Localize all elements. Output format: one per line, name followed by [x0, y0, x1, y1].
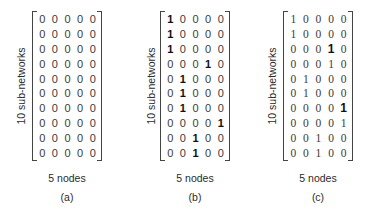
matrix-cell: 1: [177, 72, 190, 87]
matrix-cell: 0: [49, 57, 62, 72]
matrix-cell: 0: [189, 12, 202, 27]
matrix-cell: 0: [214, 12, 227, 27]
matrix-cell: 0: [164, 131, 177, 146]
panel-c: 10 sub-networks 100001000000010000100100…: [248, 0, 368, 216]
matrix-cell: 1: [177, 86, 190, 101]
panel-caption: (b): [155, 191, 235, 204]
matrix-cell: 0: [49, 12, 62, 27]
matrix-cell: 0: [337, 42, 350, 57]
matrix-cell: 0: [86, 116, 99, 131]
matrix-cell: 0: [177, 116, 190, 131]
matrix-cell: 0: [49, 116, 62, 131]
matrix-cell: 0: [202, 116, 215, 131]
matrix-cell: 0: [49, 146, 62, 161]
matrix-cell: 0: [74, 146, 87, 161]
matrix-cell: 0: [202, 42, 215, 57]
matrix-cell: 0: [312, 86, 325, 101]
matrix-cell: 0: [74, 86, 87, 101]
matrix-cell: 0: [36, 57, 49, 72]
matrix-cell: 0: [214, 57, 227, 72]
matrix-cell: 0: [214, 131, 227, 146]
matrix-cell: 0: [61, 116, 74, 131]
matrix-cell: 0: [61, 131, 74, 146]
matrix-cell: 0: [214, 27, 227, 42]
matrix-cell: 0: [337, 27, 350, 42]
panel-caption: (c): [278, 191, 358, 204]
x-axis-label: 5 nodes: [155, 172, 235, 185]
matrix-cell: 0: [86, 12, 99, 27]
panel-a: 10 sub-networks 000000000000000000000000…: [0, 0, 120, 216]
matrix-grid: 1000010000000100001001000010000000100001…: [287, 12, 350, 161]
matrix-cell: 0: [300, 146, 313, 161]
matrix-cell: 0: [36, 146, 49, 161]
matrix-cell: 0: [287, 42, 300, 57]
panel-caption: (a): [27, 191, 107, 204]
matrix-cell: 1: [312, 146, 325, 161]
matrix-cell: 0: [325, 27, 338, 42]
matrix-cell: 0: [312, 42, 325, 57]
matrix-cell: 0: [337, 12, 350, 27]
matrix-cell: 0: [74, 101, 87, 116]
matrix-cell: 0: [287, 72, 300, 87]
matrix-cell: 0: [202, 101, 215, 116]
matrix-cell: 0: [214, 146, 227, 161]
matrix-cell: 0: [61, 72, 74, 87]
y-axis-label: 10 sub-networks: [265, 26, 279, 146]
matrix-cell: 0: [164, 72, 177, 87]
matrix-cell: 0: [325, 101, 338, 116]
matrix-cell: 0: [214, 72, 227, 87]
matrix-cell: 0: [189, 42, 202, 57]
matrix-cell: 0: [287, 57, 300, 72]
matrix-cell: 0: [189, 27, 202, 42]
matrix-c: 1000010000000100001001000010000000100001…: [283, 11, 353, 161]
matrix-cell: 0: [300, 42, 313, 57]
matrix-cell: 1: [287, 27, 300, 42]
matrix-cell: 0: [325, 116, 338, 131]
matrix-cell: 1: [337, 116, 350, 131]
matrix-cell: 0: [49, 72, 62, 87]
matrix-cell: 0: [74, 116, 87, 131]
matrix-cell: 0: [49, 86, 62, 101]
matrix-cell: 1: [325, 57, 338, 72]
matrix-cell: 0: [300, 116, 313, 131]
matrix-cell: 0: [86, 101, 99, 116]
matrix-cell: 0: [202, 12, 215, 27]
matrix-cell: 0: [337, 146, 350, 161]
matrix-cell: 0: [202, 72, 215, 87]
matrix-cell: 0: [86, 42, 99, 57]
matrix-cell: 0: [177, 42, 190, 57]
matrix-cell: 0: [300, 27, 313, 42]
matrix-cell: 0: [325, 12, 338, 27]
matrix-cell: 0: [177, 27, 190, 42]
matrix-cell: 0: [202, 146, 215, 161]
matrix-cell: 0: [300, 12, 313, 27]
matrix-cell: 0: [36, 12, 49, 27]
y-axis-label: 10 sub-networks: [144, 26, 158, 146]
matrix-cell: 0: [164, 101, 177, 116]
matrix-cell: 0: [214, 101, 227, 116]
matrix-cell: 0: [49, 101, 62, 116]
matrix-cell: 1: [164, 12, 177, 27]
matrix-cell: 0: [325, 86, 338, 101]
matrix-cell: 0: [287, 101, 300, 116]
matrix-cell: 0: [287, 116, 300, 131]
matrix-grid: 0000000000000000000000000000000000000000…: [36, 12, 99, 161]
matrix-cell: 0: [61, 86, 74, 101]
matrix-cell: 0: [177, 57, 190, 72]
matrix-cell: 0: [61, 27, 74, 42]
matrix-cell: 1: [189, 146, 202, 161]
matrix-cell: 1: [177, 101, 190, 116]
matrix-cell: 0: [312, 57, 325, 72]
matrix-cell: 0: [325, 146, 338, 161]
matrix-cell: 1: [312, 131, 325, 146]
matrix-cell: 0: [312, 12, 325, 27]
matrix-cell: 0: [189, 116, 202, 131]
matrix-cell: 0: [36, 131, 49, 146]
matrix-cell: 1: [214, 116, 227, 131]
matrix-cell: 0: [287, 131, 300, 146]
matrix-cell: 0: [177, 146, 190, 161]
matrix-cell: 0: [86, 131, 99, 146]
panel-b: 10 sub-networks 100001000010000000100100…: [126, 0, 246, 216]
matrix-cell: 0: [36, 72, 49, 87]
matrix-cell: 0: [337, 57, 350, 72]
